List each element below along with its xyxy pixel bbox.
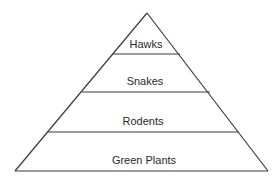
- level-label-hawks: Hawks: [129, 38, 163, 50]
- level-label-green-plants: Green Plants: [112, 154, 177, 166]
- level-label-rodents: Rodents: [123, 115, 164, 127]
- food-pyramid-diagram: Hawks Snakes Rodents Green Plants: [0, 0, 278, 181]
- level-labels: Hawks Snakes Rodents Green Plants: [112, 38, 177, 166]
- level-label-snakes: Snakes: [127, 75, 164, 87]
